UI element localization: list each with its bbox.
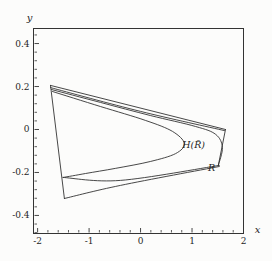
curve-left-edge [51,85,65,198]
x-axis-tick-label: 2 [241,236,247,246]
curve-bottom-edge-lower [64,167,219,199]
x-axis-label: x [255,224,261,235]
curve-top-edge-outer [51,85,226,129]
y-axis-tick-label: -0.4 [12,210,30,220]
x-axis-tick-label: 1 [189,236,195,246]
y-axis-tick-label: -0.2 [12,167,29,177]
x-axis-tick-label: -2 [33,236,42,246]
plot-frame [34,29,244,234]
curve-range-curve-inner [53,92,185,178]
annotation-range-label: R [207,162,215,173]
region-plot: -2-10120.40.20-0.2-0.4yxH(R̄)R [0,0,272,261]
y-axis-tick-label: 0.4 [15,39,30,49]
curve-hull-curve-outer [52,90,223,166]
annotation-hull-label: H(R̄) [181,139,205,150]
y-axis-tick-label: 0.2 [15,82,29,92]
curve-right-edge [218,130,225,166]
curve-top-edge-inner [51,88,225,131]
x-axis-tick-label: -1 [85,236,94,246]
figure-canvas: -2-10120.40.20-0.2-0.4yxH(R̄)R [0,0,272,261]
y-axis-tick-label: 0 [24,124,30,134]
y-axis-label: y [26,12,33,23]
x-axis-tick-label: 0 [138,236,144,246]
